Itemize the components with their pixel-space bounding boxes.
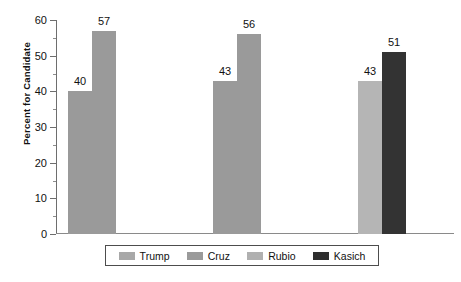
legend-label: Trump [140,250,170,262]
bar-chart: Percent for Candidate 0102030405060 4057… [0,0,461,282]
y-tick-major [50,127,56,128]
legend-item-rubio[interactable]: Rubio [247,250,295,262]
legend-label: Kasich [334,250,366,262]
bar-value-label: 56 [243,18,255,30]
legend-item-kasich[interactable]: Kasich [313,250,366,262]
legend-swatch-icon [119,252,135,260]
bar-rubio: 43 [358,81,382,234]
bar-value-label: 43 [219,65,231,77]
y-tick-minor [53,216,56,217]
bar-value-label: 43 [364,65,376,77]
y-tick-minor [53,38,56,39]
y-tick-label: 50 [35,50,47,62]
y-tick-label: 60 [35,14,47,26]
bar-value-label: 40 [74,75,86,87]
bar-cruz: 57 [92,31,116,234]
y-tick-major [50,91,56,92]
y-tick-minor [53,145,56,146]
bar-value-label: 57 [98,15,110,27]
y-tick-minor [53,74,56,75]
y-tick-major [50,234,56,235]
y-tick-major [50,163,56,164]
y-tick-label: 30 [35,121,47,133]
bar-trump: 40 [68,91,92,234]
y-tick-minor [53,109,56,110]
bar-trump: 43 [213,81,237,234]
legend-swatch-icon [187,252,203,260]
y-tick-label: 40 [35,85,47,97]
bar-kasich: 51 [382,52,406,234]
y-tick-minor [53,181,56,182]
legend-item-cruz[interactable]: Cruz [187,250,230,262]
y-tick-major [50,20,56,21]
legend-label: Cruz [208,250,230,262]
bar-value-label: 51 [388,36,400,48]
legend-item-trump[interactable]: Trump [119,250,170,262]
legend-swatch-icon [313,252,329,260]
legend-swatch-icon [247,252,263,260]
y-axis-line [56,20,57,234]
y-axis-title: Percent for Candidate [21,24,32,164]
y-tick-major [50,198,56,199]
y-tick-major [50,56,56,57]
y-tick-label: 10 [35,192,47,204]
y-tick-label: 20 [35,157,47,169]
chart-legend: TrumpCruzRubioKasich [105,245,379,266]
bar-cruz: 56 [237,34,261,234]
plot-area: 0102030405060 405743564351 [56,20,454,234]
y-tick-label: 0 [41,228,47,240]
legend-label: Rubio [268,250,295,262]
